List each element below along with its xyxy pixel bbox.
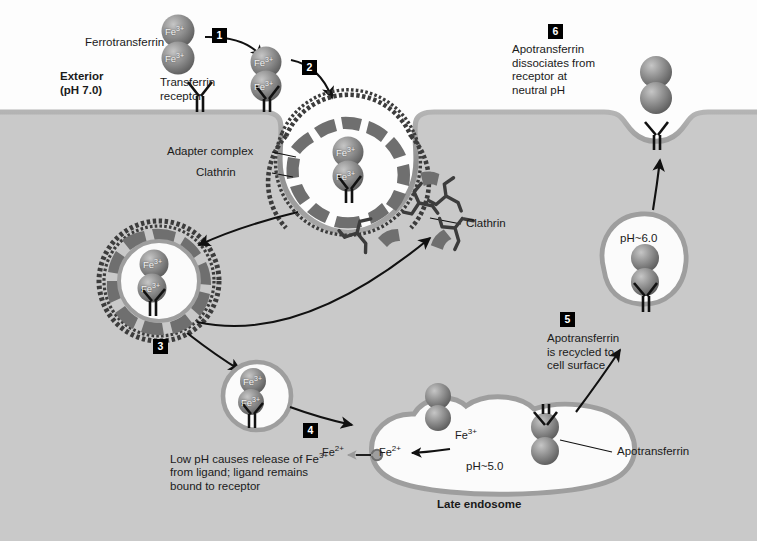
ferric-sphere-2a: Fe3+ [254,56,273,68]
ferric-sphere-1a: Fe3+ [165,25,184,37]
ferric-sphere-ee-a: Fe3+ [243,375,262,387]
step-badge-4: 4 [303,423,318,438]
ferrous-label-inside: Fe2+ [379,444,401,458]
late-endosome-ph: pH~5.0 [466,460,503,474]
step-badge-1: 1 [212,28,227,43]
ferrous-label-outside: Fe2+ [322,444,344,458]
ferric-sphere-ves-b: Fe3+ [141,282,160,294]
ferrotransferrin-label: Ferrotransferrin [85,36,164,50]
step-badge-3: 3 [153,339,168,354]
ferric-sphere-ee-b: Fe3+ [241,396,260,408]
step6-caption: Apotransferrindissociates fromreceptor a… [512,43,595,97]
apotransferrin-label: Apotransferrin [617,445,689,459]
adapter-complex-label: Adapter complex [167,145,253,159]
figure-root: Exterior (pH 7.0) Ferrotransferrin Trans… [0,0,757,541]
transferrin-receptor-label: Transferrin receptor [160,76,215,103]
ferric-sphere-1b: Fe3+ [165,52,184,64]
ferric-label-endosome: Fe3+ [455,427,477,441]
recycling-endosome-ph: pH~6.0 [620,232,657,246]
endosome-cargo-lobe-2 [425,405,451,431]
ferric-sphere-2b: Fe3+ [254,80,273,92]
step-badge-6: 6 [548,24,563,39]
clathrin-free-label: Clathrin [466,217,506,231]
step-badge-2: 2 [302,60,317,75]
exterior-label: Exterior (pH 7.0) [60,70,103,97]
ferric-sphere-ves-a: Fe3+ [143,258,162,270]
apotransferrin-in-endosome [531,404,559,465]
step4-caption: Low pH causes release of Fe3+from ligand… [170,449,380,493]
ferric-sphere-pit-a: Fe3+ [336,146,355,158]
late-endosome-label: Late endosome [437,498,521,512]
ferric-sphere-pit-b: Fe3+ [336,170,355,182]
clathrin-pit-label: Clathrin [196,166,236,180]
step-badge-5: 5 [560,312,575,327]
step5-caption: Apotransferrinis recycled tocell surface [547,332,619,373]
